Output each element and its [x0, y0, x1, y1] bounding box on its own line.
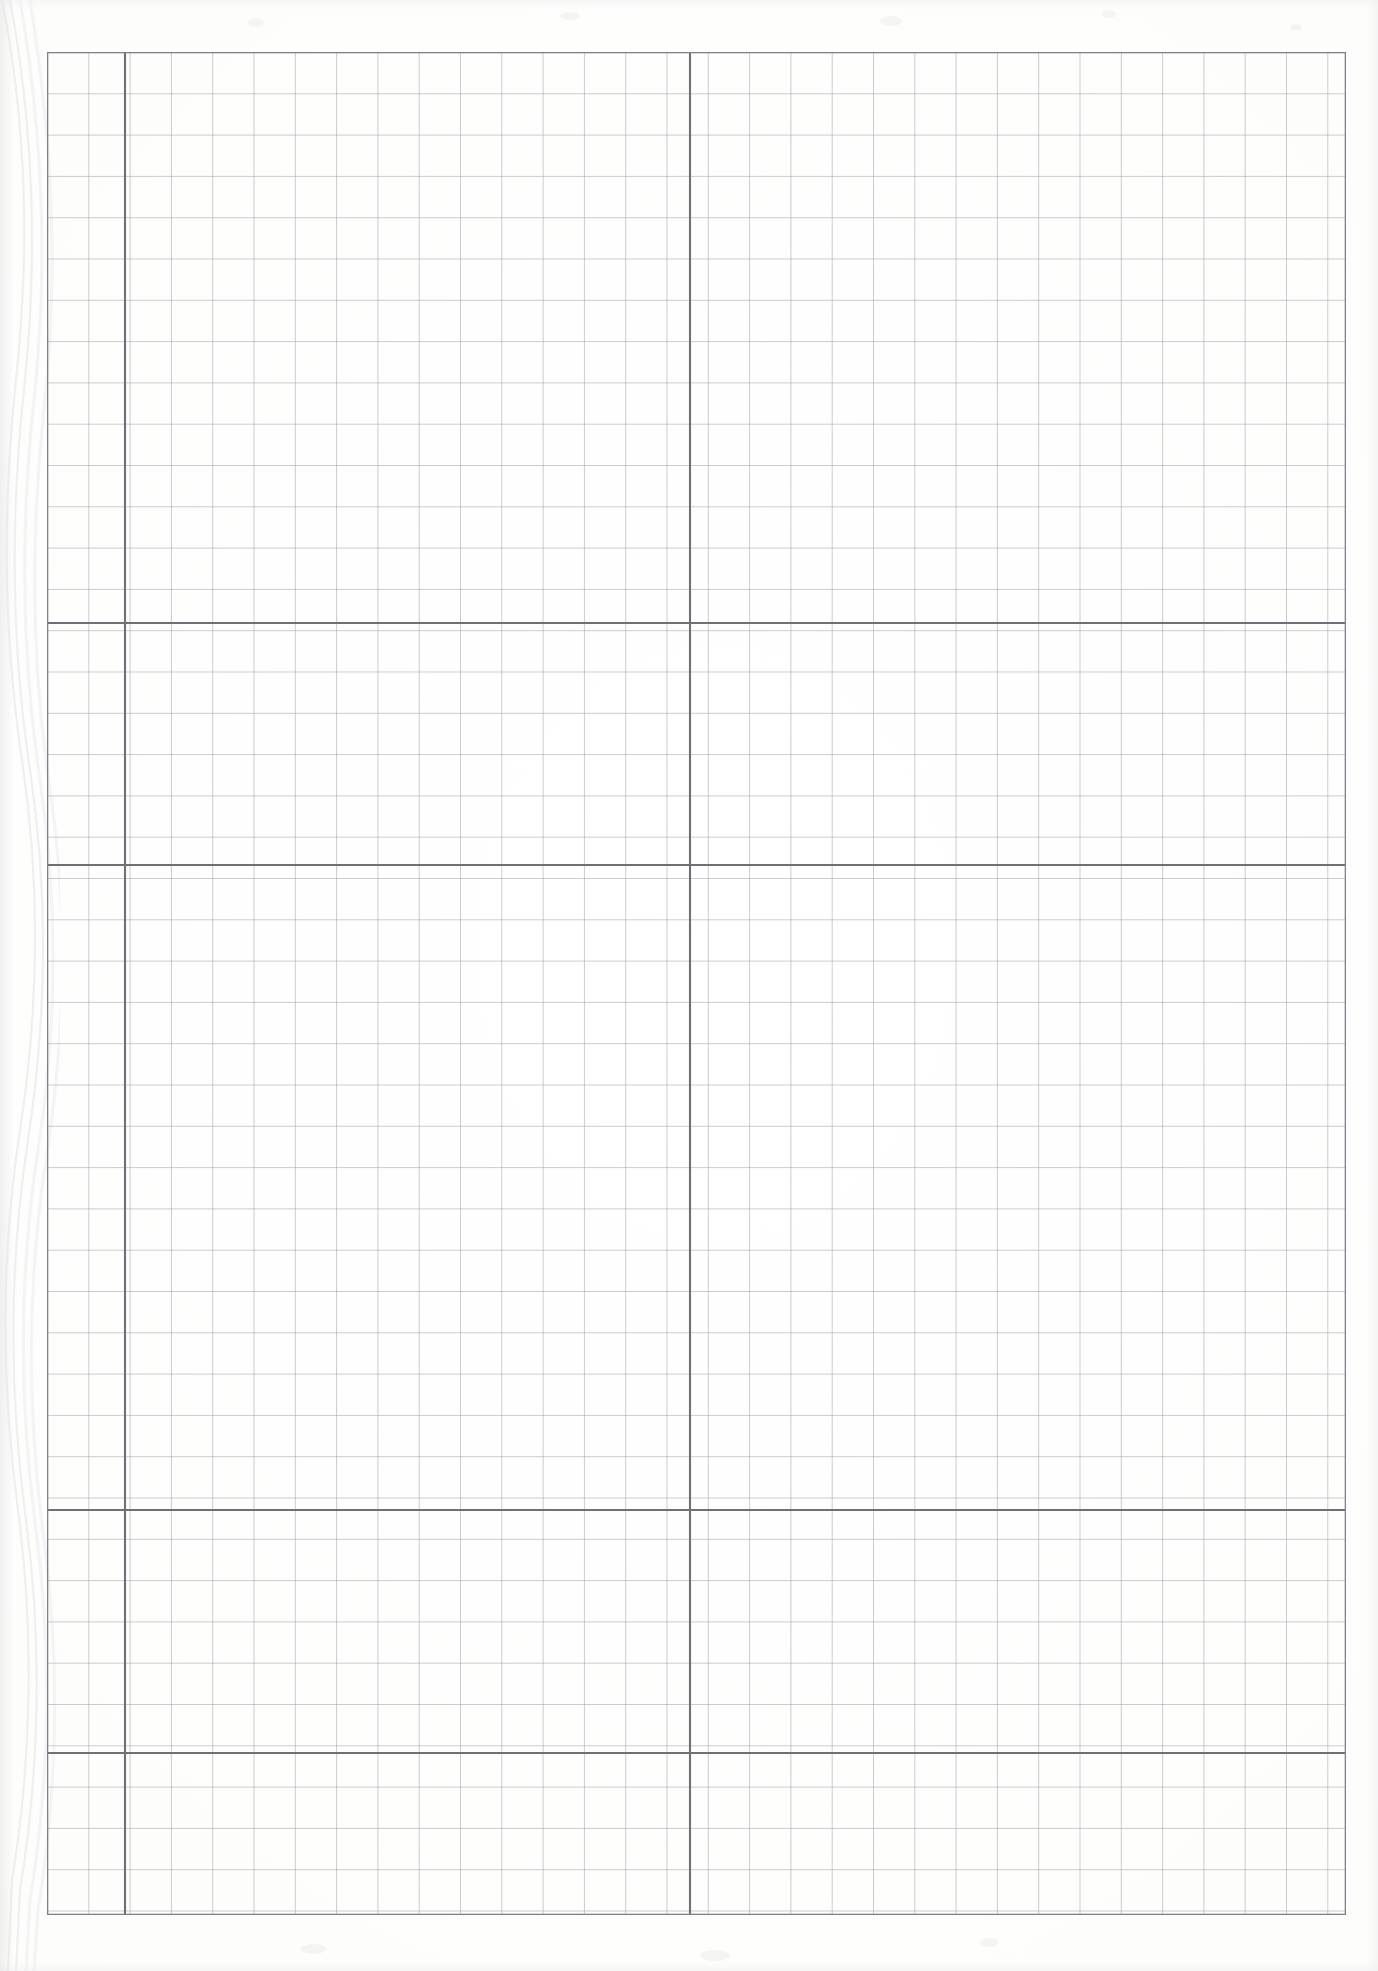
- scan-speck: [700, 1950, 730, 1961]
- scan-speck: [560, 12, 580, 20]
- graph-paper-grid: [47, 52, 1346, 1915]
- scan-speck: [248, 18, 264, 27]
- scan-speck: [980, 1938, 998, 1947]
- scan-speck: [880, 16, 902, 26]
- scanned-page: [0, 0, 1378, 1971]
- scan-speck: [300, 1944, 326, 1954]
- scan-speck: [1290, 24, 1302, 31]
- scan-speck: [1102, 10, 1116, 18]
